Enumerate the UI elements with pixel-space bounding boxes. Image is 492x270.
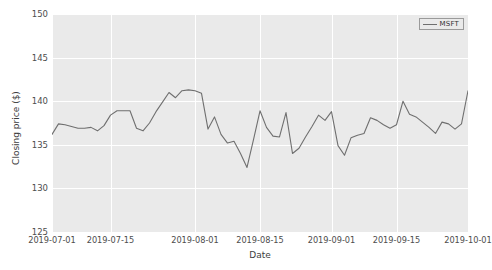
x-axis-tick-label: 2019-08-15 [236, 235, 284, 245]
x-axis-tick-label: 2019-09-15 [373, 235, 421, 245]
y-axis-tick-label: 140 [2, 96, 48, 106]
x-axis-label: Date [52, 250, 468, 260]
y-axis-tick-label: 135 [2, 140, 48, 150]
series-msft-line [52, 14, 468, 232]
y-axis-tick-label: 150 [2, 9, 48, 19]
legend: MSFT [419, 18, 464, 30]
x-axis-tick-label: 2019-09-01 [308, 235, 356, 245]
plot-area: MSFT [52, 14, 468, 232]
y-axis-label: Closing price ($) [11, 68, 21, 188]
legend-label-msft: MSFT [440, 20, 459, 28]
x-axis-tick-label: 2019-08-01 [171, 235, 219, 245]
y-axis-tick-label: 145 [2, 53, 48, 63]
x-axis-tick-label: 2019-07-15 [87, 235, 135, 245]
x-axis-ticks: 2019-07-012019-07-152019-08-012019-08-15… [52, 235, 468, 249]
x-axis-tick-label: 2019-10-01 [444, 235, 492, 245]
legend-swatch-msft [423, 24, 437, 25]
y-axis-tick-label: 130 [2, 183, 48, 193]
y-axis-ticks: 125130135140145150 [0, 14, 48, 232]
x-axis-tick-label: 2019-07-01 [28, 235, 76, 245]
